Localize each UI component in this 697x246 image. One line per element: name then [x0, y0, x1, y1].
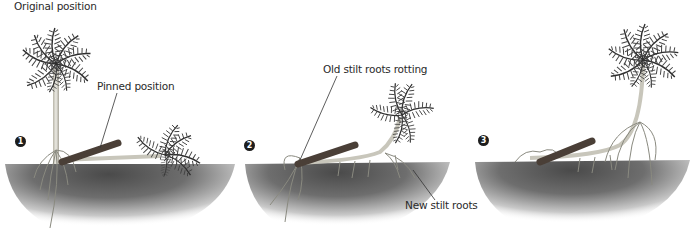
old-stilt-roots-label: Old stilt roots rotting [323, 63, 427, 75]
old-roots-leader-line [300, 76, 337, 160]
diagram-artwork [0, 0, 697, 246]
palm-diagram: Original position Pinned position Old st… [0, 0, 697, 246]
step-1-badge: 1 [15, 136, 26, 147]
panel-3-log [540, 141, 592, 162]
new-stilt-roots-label: New stilt roots [405, 199, 478, 211]
step-2-badge: 2 [244, 140, 255, 151]
original-position-label: Original position [14, 0, 97, 12]
pinned-position-label: Pinned position [97, 80, 174, 92]
pinned-leader-line [100, 93, 117, 148]
panel-1-soil [5, 164, 235, 233]
step-3-badge: 3 [478, 135, 489, 146]
panel-3-soil [475, 160, 690, 230]
